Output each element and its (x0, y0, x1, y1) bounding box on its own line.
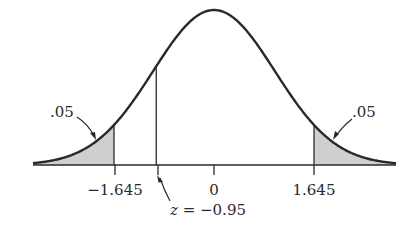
right-tail-area-label: .05 (352, 103, 376, 121)
z-variable: z (169, 201, 178, 219)
tick-label-zero: 0 (209, 181, 219, 199)
tick-label-pos: 1.645 (293, 181, 336, 199)
observed-z-label: z = −0.95 (169, 201, 246, 219)
left-tail-area-label: .05 (50, 103, 74, 121)
tick-label-neg: −1.645 (87, 181, 143, 199)
z-value: = −0.95 (178, 201, 246, 219)
left-tail-shaded-region (33, 125, 114, 165)
normal-curve (33, 10, 396, 163)
left-arrowhead-icon (90, 132, 96, 140)
right-tail-shaded-region (314, 125, 396, 165)
normal-distribution-diagram: −1.645 0 1.645 z = −0.95 .05 .05 (0, 0, 413, 229)
z-arrowhead-icon (157, 175, 163, 183)
right-tail-arrow (336, 119, 352, 136)
